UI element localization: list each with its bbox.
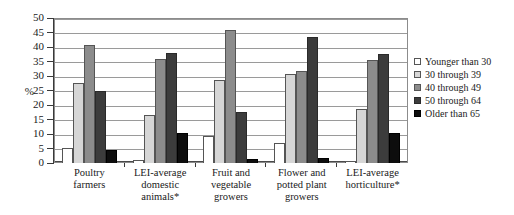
legend-swatch-icon <box>414 58 421 65</box>
x-axis-label: Poultryfarmers <box>54 167 125 203</box>
y-tick-mark <box>47 47 53 48</box>
y-tick-label: 25 <box>4 85 44 96</box>
x-axis-label: LEI-averagehorticulture* <box>337 167 408 203</box>
legend-swatch-icon <box>414 110 421 117</box>
legend-item[interactable]: 40 through 49 <box>414 82 514 93</box>
legend-item[interactable]: 50 through 64 <box>414 95 514 106</box>
x-axis-label-line: Poultry <box>55 167 124 179</box>
legend: Younger than 3030 through 3940 through 4… <box>414 56 514 121</box>
bar <box>177 133 188 163</box>
x-axis-label-line: animals* <box>126 191 195 203</box>
y-tick-label: 50 <box>4 12 44 23</box>
bar-group <box>266 18 337 163</box>
y-tick-mark <box>47 90 53 91</box>
x-axis-label-line: growers <box>197 191 266 203</box>
x-axis-label-line: Fruit and <box>197 167 266 179</box>
y-tick-label: 10 <box>4 128 44 139</box>
legend-label: Older than 65 <box>425 108 480 119</box>
x-axis-label-line: farmers <box>55 179 124 191</box>
y-tick-label: 15 <box>4 114 44 125</box>
legend-label: 50 through 64 <box>425 95 481 106</box>
y-tick-mark <box>47 105 53 106</box>
bar <box>214 80 225 163</box>
y-tick-label: 45 <box>4 27 44 38</box>
bar <box>155 59 166 163</box>
y-tick-mark <box>47 163 53 164</box>
legend-swatch-icon <box>414 71 421 78</box>
legend-label: 30 through 39 <box>425 69 481 80</box>
y-tick-label: 35 <box>4 56 44 67</box>
bar <box>247 159 258 163</box>
bar <box>307 37 318 163</box>
x-axis-labels: PoultryfarmersLEI-averagedomesticanimals… <box>54 167 408 203</box>
y-tick-label: 40 <box>4 41 44 52</box>
bar <box>274 143 285 163</box>
y-tick-mark <box>47 119 53 120</box>
bar-group <box>337 18 408 163</box>
x-axis-label-line: LEI-average <box>126 167 195 179</box>
bar <box>225 30 236 163</box>
bar <box>285 74 296 163</box>
bar <box>133 160 144 163</box>
bar <box>345 161 356 163</box>
bar <box>62 148 73 163</box>
bar <box>144 115 155 163</box>
bar-group <box>54 18 125 163</box>
bar-groups <box>54 18 408 163</box>
y-tick-mark <box>47 134 53 135</box>
bar <box>106 150 117 163</box>
x-axis-label-line: LEI-average <box>338 167 407 179</box>
legend-item[interactable]: 30 through 39 <box>414 69 514 80</box>
legend-label: Younger than 30 <box>425 56 491 67</box>
bar-chart: % 05101520253035404550 PoultryfarmersLEI… <box>0 0 514 215</box>
y-tick-mark <box>47 76 53 77</box>
bar <box>378 54 389 163</box>
bar <box>166 53 177 163</box>
x-axis-label: LEI-averagedomesticanimals* <box>125 167 196 203</box>
bar-group <box>196 18 267 163</box>
bar <box>203 136 214 163</box>
y-tick-label: 30 <box>4 70 44 81</box>
bar <box>389 133 400 163</box>
x-axis-label-line: growers <box>267 191 336 203</box>
bar-group <box>125 18 196 163</box>
x-axis-label-line: domestic <box>126 179 195 191</box>
bar <box>73 83 84 163</box>
y-tick-mark <box>47 148 53 149</box>
bar <box>318 158 329 163</box>
bar <box>367 60 378 163</box>
legend-item[interactable]: Older than 65 <box>414 108 514 119</box>
x-axis-label-line: horticulture* <box>338 179 407 191</box>
legend-swatch-icon <box>414 84 421 91</box>
bar <box>84 45 95 163</box>
y-tick-mark <box>47 61 53 62</box>
bar <box>356 109 367 163</box>
x-axis-label: Flower andpotted plantgrowers <box>266 167 337 203</box>
y-tick-label: 20 <box>4 99 44 110</box>
y-tick-label: 5 <box>4 143 44 154</box>
y-tick-label: 0 <box>4 157 44 168</box>
bar <box>95 91 106 163</box>
legend-item[interactable]: Younger than 30 <box>414 56 514 67</box>
bar <box>236 112 247 163</box>
x-axis-label-line: Flower and <box>267 167 336 179</box>
x-axis-label: Fruit andvegetablegrowers <box>196 167 267 203</box>
bar <box>296 71 307 163</box>
y-tick-mark <box>47 18 53 19</box>
x-axis-label-line: potted plant <box>267 179 336 191</box>
x-axis-label-line: vegetable <box>197 179 266 191</box>
legend-label: 40 through 49 <box>425 82 481 93</box>
legend-swatch-icon <box>414 97 421 104</box>
y-tick-mark <box>47 32 53 33</box>
